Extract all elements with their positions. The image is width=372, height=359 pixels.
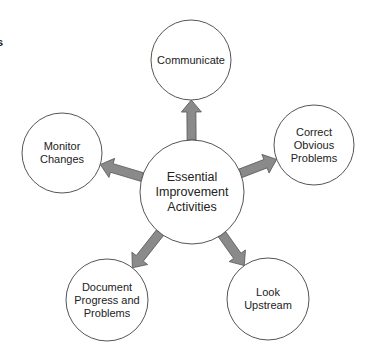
look-node-label: Look Upstream [244,286,292,312]
communicate-node-label: Communicate [157,54,225,67]
document-node-label: Document Progress and Problems [74,281,139,320]
arrow-to-monitor [100,158,143,181]
correct-node-label: Correct Obvious Problems [291,126,337,165]
arrow-to-correct [239,154,277,177]
arrow-to-document [132,230,163,268]
arrow-to-communicate [181,100,201,140]
arrow-to-look [218,232,245,266]
monitor-node-label: Monitor Changes [40,140,84,166]
center-node-label: Essential Improvement Activities [156,170,229,215]
